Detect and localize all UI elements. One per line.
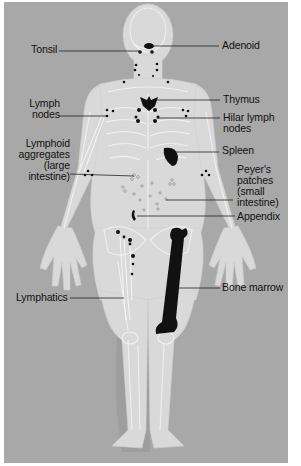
label-lymphatics: Lymphatics bbox=[16, 292, 68, 303]
label-adenoid: Adenoid bbox=[222, 40, 260, 51]
diagram-panel: Tonsil Lymph nodes Lymphoid aggregates (… bbox=[4, 2, 288, 463]
label-appendix: Appendix bbox=[237, 211, 280, 222]
label-lymph-nodes: Lymph nodes bbox=[26, 98, 60, 120]
label-tonsil: Tonsil bbox=[31, 44, 57, 55]
label-spleen: Spleen bbox=[222, 145, 254, 156]
label-peyers-patches: Peyer's patches (small intestine) bbox=[237, 164, 279, 208]
label-thymus: Thymus bbox=[223, 94, 260, 105]
adenoid bbox=[144, 43, 154, 49]
label-bone-marrow: Bone marrow bbox=[222, 282, 283, 293]
label-lymphoid-aggregates: Lymphoid aggregates (large intestine) bbox=[16, 138, 70, 182]
human-body-figure bbox=[4, 2, 288, 463]
label-hilar-lymph-nodes: Hilar lymph nodes bbox=[223, 112, 274, 134]
